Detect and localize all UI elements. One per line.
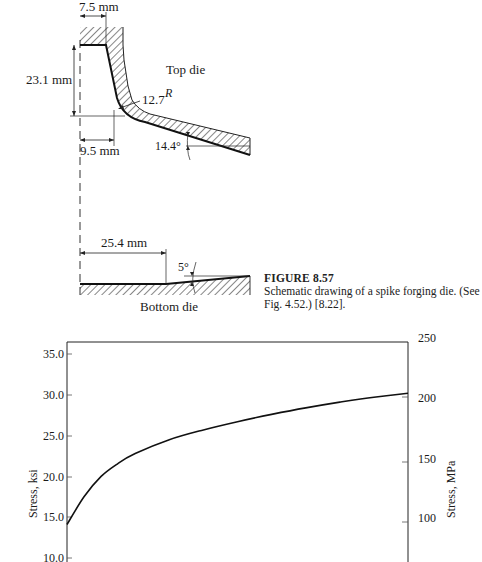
top-die-diagram: 7.5 mm 23.1 mm 9.5 mm 12.7 R 14.4° Top d… (26, 0, 250, 300)
stress-chart: 35.0 30.0 25.0 20.0 15.0 10.0 250 200 15… (26, 331, 458, 562)
y-axis-label-left: Stress, ksi (26, 469, 40, 518)
figure-caption-text: Schematic drawing of a spike forging die… (264, 285, 482, 311)
bottom-die-diagram: 25.4 mm 5° Bottom die (80, 235, 250, 314)
figure-caption: FIGURE 8.57 Schematic drawing of a spike… (264, 272, 482, 311)
y-axis-label-right: Stress, MPa (444, 460, 458, 518)
right-ticks: 250 200 150 100 (402, 331, 436, 525)
dim-base-offset: 9.5 mm (80, 143, 120, 158)
ytick-left: 20.0 (43, 470, 64, 484)
figure-title: FIGURE 8.57 (264, 272, 482, 285)
dim-radius: 12.7 (142, 92, 165, 107)
ytick-right: 200 (418, 391, 436, 405)
dim-top-angle: 14.4° (155, 139, 181, 153)
ytick-left: 25.0 (43, 429, 64, 443)
left-ticks: 35.0 30.0 25.0 20.0 15.0 10.0 (43, 347, 72, 562)
dim-top-width: 7.5 mm (79, 0, 119, 14)
dim-bottom-angle: 5° (178, 260, 189, 274)
stress-curve (67, 393, 408, 524)
top-die-label: Top die (166, 62, 205, 77)
dim-height: 23.1 mm (26, 72, 72, 87)
ytick-right: 150 (418, 452, 436, 466)
ytick-right: 250 (418, 331, 436, 345)
ytick-left: 10.0 (43, 551, 64, 562)
dim-bottom-length: 25.4 mm (101, 235, 147, 250)
ytick-right: 100 (418, 511, 436, 525)
bottom-die-label: Bottom die (140, 299, 198, 314)
ytick-left: 15.0 (43, 510, 64, 524)
ytick-left: 30.0 (43, 388, 64, 402)
dim-radius-sup: R (164, 86, 173, 100)
ytick-left: 35.0 (43, 347, 64, 361)
